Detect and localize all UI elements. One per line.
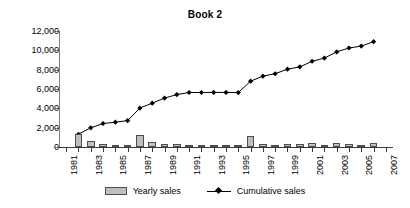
data-point-marker (346, 45, 351, 50)
bar (333, 143, 341, 147)
legend-item-cumulative-sales: Cumulative sales (207, 186, 306, 196)
data-point-marker (285, 67, 290, 72)
bar (234, 145, 242, 147)
data-point-marker (273, 71, 278, 76)
data-point-marker (174, 92, 179, 97)
x-tick-mark (251, 148, 252, 152)
x-tick-mark (263, 148, 264, 152)
data-point-marker (113, 120, 118, 125)
x-tick-mark (374, 148, 375, 152)
data-point-marker (150, 101, 155, 106)
plot-area (60, 31, 392, 147)
x-tick-mark (189, 148, 190, 152)
x-tick-mark (312, 148, 313, 152)
bar (222, 145, 230, 147)
x-tick-label: 1999 (291, 155, 300, 175)
legend-label-yearly-sales: Yearly sales (133, 186, 181, 196)
x-tick-mark (128, 148, 129, 152)
x-tick-mark (214, 148, 215, 152)
x-tick-label: 1981 (70, 155, 79, 175)
bar (308, 143, 316, 147)
x-tick-label: 1987 (144, 155, 153, 175)
bar (198, 145, 206, 147)
legend-item-yearly-sales: Yearly sales (105, 186, 181, 196)
x-tick-label: 1993 (218, 155, 227, 175)
bar (271, 145, 279, 147)
bar-swatch-icon (105, 187, 127, 195)
x-tick-mark (300, 148, 301, 152)
bar (99, 144, 107, 147)
x-tick-mark (140, 148, 141, 152)
bar (259, 144, 267, 147)
x-tick-label: 2001 (316, 155, 325, 175)
data-point-marker (297, 64, 302, 69)
data-point-marker (359, 43, 364, 48)
bar (148, 142, 156, 147)
bar (124, 145, 132, 147)
bar (284, 144, 292, 147)
data-point-marker (260, 74, 265, 79)
x-tick-mark (337, 148, 338, 152)
data-point-marker (199, 90, 204, 95)
x-tick-label: 1985 (119, 155, 128, 175)
bar (345, 144, 353, 147)
x-tick-mark (91, 148, 92, 152)
data-point-marker (223, 90, 228, 95)
data-point-marker (309, 59, 314, 64)
x-tick-mark (361, 148, 362, 152)
bar (210, 145, 218, 147)
bar (87, 141, 95, 147)
chart-container: Book 2 02,0004,0006,0008,00010,00012,000… (0, 0, 410, 208)
bar (112, 145, 120, 147)
bar (173, 144, 181, 147)
x-tick-label: 2005 (365, 155, 374, 175)
bar (185, 145, 193, 147)
x-tick-mark (386, 148, 387, 152)
data-point-marker (211, 90, 216, 95)
bar (321, 145, 329, 148)
x-tick-mark (103, 148, 104, 152)
x-tick-label: 1983 (95, 155, 104, 175)
line-marker-swatch-icon (207, 187, 231, 195)
x-tick-mark (66, 148, 67, 152)
data-point-marker (162, 95, 167, 100)
bar (136, 135, 144, 147)
x-tick-mark (165, 148, 166, 152)
x-tick-mark (78, 148, 79, 152)
x-tick-mark (177, 148, 178, 152)
x-tick-mark (226, 148, 227, 152)
x-tick-mark (115, 148, 116, 152)
data-point-marker (100, 121, 105, 126)
data-point-marker (187, 90, 192, 95)
bar (161, 144, 169, 147)
data-point-marker (334, 49, 339, 54)
x-tick-label: 2007 (390, 155, 399, 175)
bar (296, 144, 304, 147)
bar (357, 145, 365, 147)
bar (247, 136, 255, 147)
x-tick-mark (287, 148, 288, 152)
chart-legend: Yearly sales Cumulative sales (0, 186, 410, 196)
x-tick-label: 1997 (267, 155, 276, 175)
x-axis-line (59, 147, 393, 148)
cumulative-sales-line-series (60, 31, 392, 147)
data-point-marker (322, 55, 327, 60)
x-tick-label: 1991 (193, 155, 202, 175)
data-point-marker (88, 125, 93, 130)
x-tick-mark (349, 148, 350, 152)
x-tick-mark (324, 148, 325, 152)
bar (75, 134, 83, 147)
x-tick-label: 2003 (341, 155, 350, 175)
data-point-marker (371, 39, 376, 44)
x-tick-label: 1995 (242, 155, 251, 175)
legend-label-cumulative-sales: Cumulative sales (237, 186, 306, 196)
x-tick-mark (152, 148, 153, 152)
x-tick-mark (238, 148, 239, 152)
cumulative-sales-line (78, 42, 373, 135)
x-tick-label: 1989 (169, 155, 178, 175)
x-tick-mark (201, 148, 202, 152)
x-tick-mark (275, 148, 276, 152)
bar (370, 143, 378, 147)
